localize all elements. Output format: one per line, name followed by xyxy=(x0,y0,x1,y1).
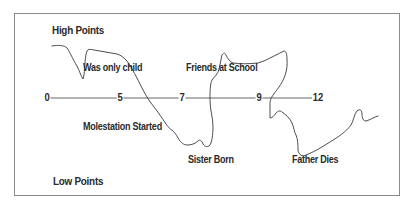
event-friends-at-school: Friends at School xyxy=(186,62,257,73)
axis-tick-7: 7 xyxy=(179,92,186,103)
event-was-only-child: Was only child xyxy=(83,62,142,73)
low-points-label: Low Points xyxy=(53,176,103,188)
event-father-dies: Father Dies xyxy=(292,154,338,165)
event-sister-born: Sister Born xyxy=(188,154,234,165)
axis-tick-5: 5 xyxy=(117,92,124,103)
axis-tick-9: 9 xyxy=(256,92,263,103)
axis-tick-12: 12 xyxy=(312,92,324,103)
axis-tick-0: 0 xyxy=(44,92,51,103)
high-points-label: High Points xyxy=(52,25,104,37)
event-molestation-started: Molestation Started xyxy=(83,121,162,132)
